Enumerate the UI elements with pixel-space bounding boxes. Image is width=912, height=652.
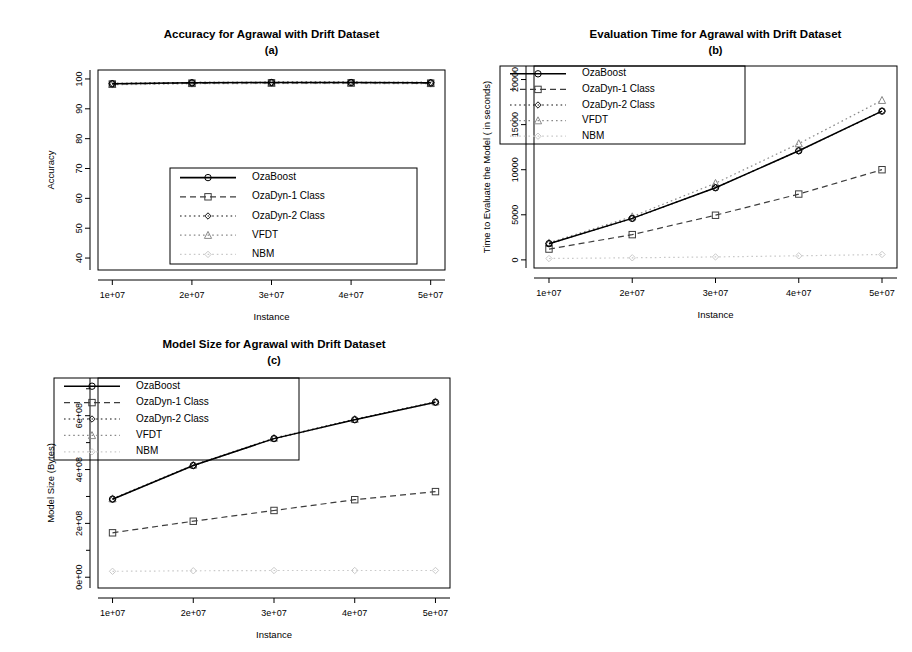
x-axis-tick-label: 4e+07 (786, 288, 811, 298)
chart-subtitle: (c) (267, 354, 281, 366)
x-axis-label: Instance (256, 629, 292, 640)
legend-label: OzaDyn-2 Class (136, 413, 209, 424)
legend-label: OzaDyn-2 Class (582, 99, 655, 110)
chart-subtitle: (b) (708, 44, 722, 56)
legend-item-ozadyn-1-class[interactable]: OzaDyn-1 Class (510, 83, 655, 94)
legend-item-ozaboost[interactable]: OzaBoost (64, 380, 180, 391)
chart-panel-a: Accuracy for Agrawal with Drift Dataset(… (20, 18, 460, 318)
y-axis-tick-label: 70 (74, 163, 84, 173)
chart-b: Evaluation Time for Agrawal with Drift D… (462, 18, 912, 318)
legend-label: NBM (136, 445, 158, 456)
x-axis-tick-label: 3e+07 (261, 608, 286, 618)
x-axis-tick-label: 5e+07 (869, 288, 894, 298)
y-axis-tick-label: 10000 (510, 157, 520, 182)
x-axis-tick-label: 3e+07 (703, 288, 728, 298)
plot-frame (98, 70, 445, 270)
legend-item-ozaboost[interactable]: OzaBoost (510, 67, 626, 78)
chart-a: Accuracy for Agrawal with Drift Dataset(… (20, 18, 460, 318)
legend-item-ozadyn-2-class[interactable]: OzaDyn-2 Class (180, 210, 325, 221)
legend-item-ozadyn-2-class[interactable]: OzaDyn-2 Class (64, 413, 209, 424)
legend-item-ozaboost[interactable]: OzaBoost (180, 171, 296, 182)
data-point-marker (879, 167, 885, 173)
y-axis-tick-label: 0e+00 (74, 565, 84, 590)
legend-label: OzaBoost (252, 171, 296, 182)
x-axis-tick-label: 2e+07 (179, 290, 204, 300)
legend-item-vfdt[interactable]: VFDT (64, 429, 162, 440)
y-axis-tick-label: 0 (510, 257, 520, 262)
legend-label: VFDT (582, 114, 608, 125)
chart-panel-b: Evaluation Time for Agrawal with Drift D… (462, 18, 912, 318)
series-nbm (109, 567, 438, 574)
x-axis-label: Instance (254, 311, 290, 322)
figure-root: Accuracy for Agrawal with Drift Dataset(… (0, 0, 912, 652)
x-axis-tick-label: 4e+07 (342, 608, 367, 618)
legend-label: OzaDyn-1 Class (252, 190, 325, 201)
data-point-marker (795, 140, 802, 147)
series-ozadyn-1-class (109, 488, 438, 536)
series-nbm (546, 251, 885, 261)
data-point-marker (879, 108, 885, 114)
legend-item-ozadyn-1-class[interactable]: OzaDyn-1 Class (64, 396, 209, 407)
data-point-marker (546, 255, 552, 261)
series-nbm (109, 81, 434, 89)
y-axis-tick-label: 50 (74, 223, 84, 233)
series-ozaboost (546, 108, 885, 247)
series-ozadyn-2-class (546, 108, 885, 247)
x-axis-tick-label: 5e+07 (423, 608, 448, 618)
chart-panel-c: Model Size for Agrawal with Drift Datase… (20, 330, 470, 640)
y-axis-tick-label: 5000 (510, 205, 520, 225)
plot-frame (534, 66, 897, 268)
x-axis-label: Instance (698, 309, 734, 320)
legend-item-nbm[interactable]: NBM (510, 130, 604, 141)
chart-title: Model Size for Agrawal with Drift Datase… (162, 338, 385, 350)
legend-item-nbm[interactable]: NBM (180, 248, 274, 259)
y-axis-tick-label: 20000 (510, 67, 520, 92)
y-axis-tick-label: 6e+08 (74, 403, 84, 428)
legend-label: NBM (582, 130, 604, 141)
legend-item-vfdt[interactable]: VFDT (180, 229, 278, 240)
x-axis-tick-label: 1e+07 (100, 290, 125, 300)
legend-label: OzaDyn-1 Class (136, 396, 209, 407)
chart-title: Evaluation Time for Agrawal with Drift D… (590, 28, 842, 40)
y-axis-tick-label: 90 (74, 104, 84, 114)
series-line (113, 492, 436, 533)
data-point-marker (879, 251, 885, 257)
data-point-marker (878, 96, 885, 103)
series-line (549, 170, 882, 249)
legend-label: NBM (252, 248, 274, 259)
legend-label: OzaDyn-2 Class (252, 210, 325, 221)
x-axis-tick-label: 2e+07 (620, 288, 645, 298)
legend-item-nbm[interactable]: NBM (64, 445, 158, 456)
x-axis-tick-label: 4e+07 (338, 290, 363, 300)
x-axis-tick-label: 5e+07 (418, 290, 443, 300)
legend-label: VFDT (252, 229, 278, 240)
y-axis-tick-label: 2e+08 (74, 511, 84, 536)
y-axis-tick-label: 60 (74, 193, 84, 203)
legend-item-ozadyn-2-class[interactable]: OzaDyn-2 Class (510, 99, 655, 110)
y-axis-tick-label: 40 (74, 253, 84, 263)
legend-label: OzaBoost (136, 380, 180, 391)
y-axis-label: Time to Evaluate the Model ( in seconds) (481, 81, 492, 253)
y-axis-tick-label: 80 (74, 134, 84, 144)
legend: OzaBoostOzaDyn-1 ClassOzaDyn-2 ClassVFDT… (54, 378, 299, 460)
x-axis-tick-label: 1e+07 (536, 288, 561, 298)
x-axis-tick-label: 2e+07 (181, 608, 206, 618)
legend-label: OzaDyn-1 Class (582, 83, 655, 94)
chart-subtitle: (a) (265, 44, 279, 56)
series-line (549, 255, 882, 259)
y-axis-label: Accuracy (45, 150, 56, 189)
legend-item-ozadyn-1-class[interactable]: OzaDyn-1 Class (180, 190, 325, 201)
y-axis-tick-label: 4e+08 (74, 457, 84, 482)
legend-item-vfdt[interactable]: VFDT (510, 114, 608, 125)
legend-label: VFDT (136, 429, 162, 440)
legend-label: OzaBoost (582, 67, 626, 78)
chart-c: Model Size for Agrawal with Drift Datase… (20, 330, 470, 640)
y-axis-tick-label: 100 (74, 71, 84, 86)
x-axis-tick-label: 1e+07 (100, 608, 125, 618)
legend: OzaBoostOzaDyn-1 ClassOzaDyn-2 ClassVFDT… (170, 168, 417, 264)
legend: OzaBoostOzaDyn-1 ClassOzaDyn-2 ClassVFDT… (500, 66, 745, 144)
x-axis-tick-label: 3e+07 (259, 290, 284, 300)
data-layer (109, 79, 435, 88)
y-axis-tick-label: 15000 (510, 112, 520, 137)
chart-title: Accuracy for Agrawal with Drift Dataset (164, 28, 380, 40)
